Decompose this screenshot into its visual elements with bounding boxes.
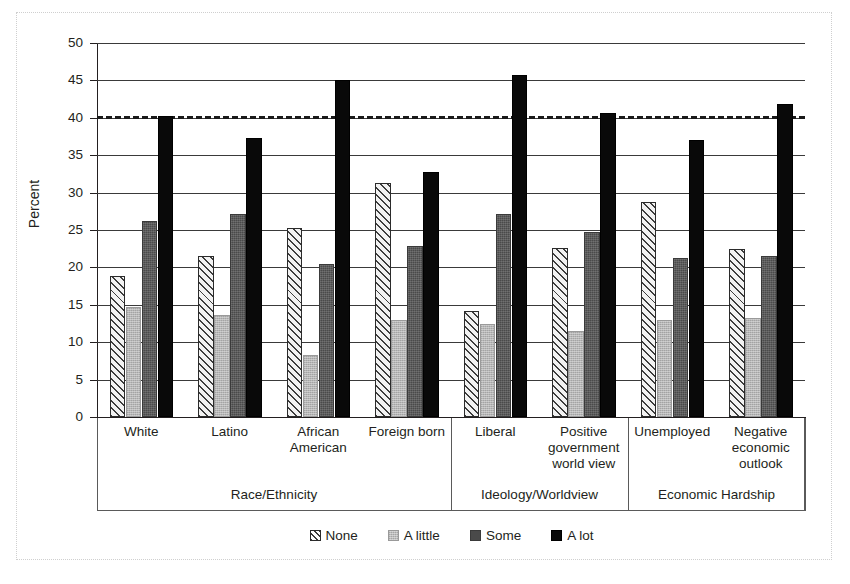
bar [423,172,439,417]
category-label-line: Foreign born [363,424,452,440]
y-tick-label-30: 30 [68,186,83,200]
category-label: AfricanAmerican [274,424,363,456]
legend-item[interactable]: None [310,528,358,543]
bar [335,80,351,417]
bar [287,228,303,417]
legend-label: None [326,528,358,543]
category-group-label: Race/Ethnicity [97,487,451,503]
category-label: Unemployed [628,424,717,440]
category-label: Positivegovernmentworld view [540,424,629,472]
category-label: Latino [186,424,275,440]
bar [729,249,745,417]
bar [761,256,777,417]
bar [214,315,230,417]
legend-label: A little [404,528,440,543]
y-tick-50 [90,43,97,44]
category-label-line: economic [717,440,806,456]
legend-swatch-icon [470,530,481,541]
bar [110,276,126,417]
bar [303,355,319,417]
y-tick-label-20: 20 [68,260,83,274]
y-tick-25 [90,230,97,231]
bar [641,202,657,417]
y-tick-15 [90,305,97,306]
category-label-line: Negative [717,424,806,440]
gridline-50 [97,43,805,44]
category-group-label: Ideology/Worldview [451,487,628,503]
y-tick-5 [90,380,97,381]
y-tick-30 [90,193,97,194]
bar [246,138,262,417]
bar [568,331,584,417]
bar [142,221,158,417]
bar [689,140,705,417]
bar [745,318,761,417]
category-group-label: Economic Hardship [628,487,805,503]
y-tick-label-0: 0 [75,410,83,424]
category-label-line: world view [540,456,629,472]
y-tick-label-15: 15 [68,298,83,312]
plot-area [97,43,805,417]
category-label: Liberal [451,424,540,440]
category-label-line: outlook [717,456,806,472]
y-tick-label-35: 35 [68,148,83,162]
legend-swatch-icon [310,530,321,541]
chart-legend: NoneA littleSomeA lot [97,524,806,546]
bar [198,256,214,417]
category-label: Foreign born [363,424,452,440]
y-tick-label-45: 45 [68,73,83,87]
legend-item[interactable]: A little [388,528,440,543]
bar [319,264,335,417]
y-tick-label-10: 10 [68,335,83,349]
y-tick-10 [90,342,97,343]
category-label: White [97,424,186,440]
y-tick-0 [90,417,97,418]
bar [391,320,407,417]
y-tick-40 [90,118,97,119]
category-label: Negativeeconomicoutlook [717,424,806,472]
legend-label: A lot [567,528,593,543]
reference-line [97,116,805,119]
y-tick-label-50: 50 [68,36,83,50]
bar [464,311,480,417]
y-axis-tick-labels: 50454035302520151050 [40,0,83,584]
y-tick-35 [90,155,97,156]
chart-figure: Percent 50454035302520151050 NoneA littl… [0,0,850,584]
bar [496,214,512,417]
category-label-line: White [97,424,186,440]
bar [600,113,616,417]
y-tick-20 [90,267,97,268]
bar [126,307,142,417]
category-label-line: African [274,424,363,440]
bar [375,183,391,417]
bar [552,248,568,417]
y-tick-label-25: 25 [68,223,83,237]
bar [230,214,246,417]
category-label-line: Liberal [451,424,540,440]
y-tick-label-5: 5 [75,373,83,387]
category-label-line: American [274,440,363,456]
category-label-line: Positive [540,424,629,440]
bar [480,324,496,417]
bar [158,116,174,417]
bar [407,246,423,417]
legend-label: Some [486,528,521,543]
category-label-line: Unemployed [628,424,717,440]
bar [512,75,528,417]
bar [673,258,689,417]
y-tick-label-40: 40 [68,111,83,125]
category-label-line: government [540,440,629,456]
gridline-45 [97,80,805,81]
legend-swatch-icon [551,530,562,541]
bar [584,232,600,418]
y-tick-45 [90,80,97,81]
bar [657,320,673,417]
legend-item[interactable]: Some [470,528,521,543]
legend-item[interactable]: A lot [551,528,593,543]
bar [777,104,793,417]
legend-swatch-icon [388,530,399,541]
category-label-line: Latino [186,424,275,440]
